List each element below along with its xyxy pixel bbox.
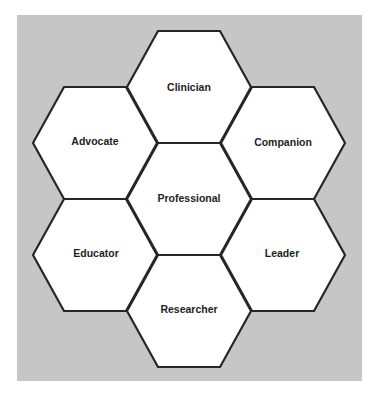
hex-label-clinician: Clinician [167, 81, 211, 93]
hex-label-educator: Educator [73, 247, 119, 259]
hex-label-researcher: Researcher [160, 303, 217, 315]
hex-label-companion: Companion [254, 136, 312, 148]
hex-label-advocate: Advocate [71, 135, 118, 147]
hexagon-diagram: Clinician Advocate Companion Educator Le… [0, 0, 378, 394]
hex-label-leader: Leader [265, 247, 299, 259]
hex-label-professional: Professional [157, 192, 220, 204]
